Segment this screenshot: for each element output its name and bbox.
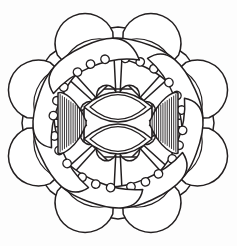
- artboard: Floral Mandala Line Drawing black ink ou…: [0, 0, 237, 246]
- mandala-drawing: [0, 0, 237, 246]
